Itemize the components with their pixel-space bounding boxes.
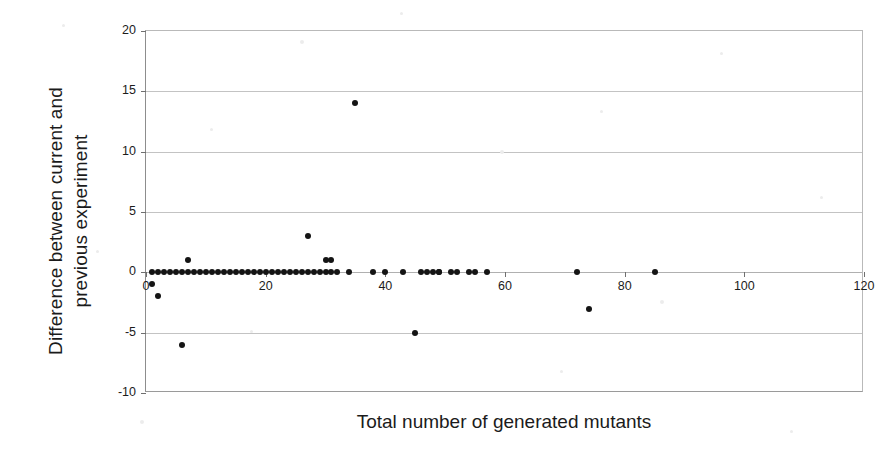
paper-speck <box>720 52 723 55</box>
x-tick-label-80: 80 <box>618 279 632 293</box>
y-tick-labels-group: -10-505101520 <box>0 0 145 362</box>
y-tick-label--5: -5 <box>125 325 136 339</box>
data-point <box>370 269 376 275</box>
data-point <box>454 269 460 275</box>
data-point <box>191 269 197 275</box>
data-point <box>167 269 173 275</box>
data-point <box>251 269 257 275</box>
x-tick-mark-80 <box>625 272 626 277</box>
y-tick-label-15: 15 <box>122 83 136 97</box>
x-tick-mark-0 <box>146 272 147 277</box>
data-point <box>305 269 311 275</box>
paper-speck <box>300 40 304 44</box>
x-axis-title: Total number of generated mutants <box>145 411 863 433</box>
data-point <box>382 269 388 275</box>
data-point <box>149 281 155 287</box>
data-point <box>299 269 305 275</box>
paper-speck <box>600 110 603 113</box>
paper-speck <box>820 196 823 199</box>
data-point <box>185 257 191 263</box>
y-tick-label--10: -10 <box>118 385 136 399</box>
x-tick-label-20: 20 <box>259 279 273 293</box>
data-point <box>239 269 245 275</box>
data-point <box>173 269 179 275</box>
paper-speck <box>400 12 403 15</box>
data-point <box>179 342 185 348</box>
data-point <box>269 269 275 275</box>
data-point <box>346 269 352 275</box>
data-point <box>317 269 323 275</box>
data-point <box>215 269 221 275</box>
y-tick-label-5: 5 <box>129 204 136 218</box>
paper-speck <box>790 430 793 433</box>
data-point <box>311 269 317 275</box>
data-point <box>209 269 215 275</box>
data-point <box>227 269 233 275</box>
y-tick-label-10: 10 <box>122 144 136 158</box>
data-point <box>328 257 334 263</box>
data-point <box>263 269 269 275</box>
data-point <box>185 269 191 275</box>
data-point <box>352 100 358 106</box>
data-point <box>221 269 227 275</box>
paper-speck <box>560 370 563 373</box>
x-tick-label-100: 100 <box>734 279 755 293</box>
data-point <box>203 269 209 275</box>
paper-speck <box>210 128 213 131</box>
data-point <box>281 269 287 275</box>
scatter-chart-figure: Difference between current and previous … <box>0 0 887 453</box>
data-point <box>233 269 239 275</box>
paper-speck <box>96 250 99 253</box>
data-point <box>293 269 299 275</box>
gridline-y-15 <box>146 91 862 92</box>
y-tick-label-0: 0 <box>129 264 136 278</box>
data-point <box>257 269 263 275</box>
data-point <box>334 269 340 275</box>
x-tick-label-60: 60 <box>498 279 512 293</box>
data-point <box>574 269 580 275</box>
paper-speck <box>500 150 504 154</box>
data-point <box>472 269 478 275</box>
data-point <box>586 306 592 312</box>
x-tick-label-120: 120 <box>854 279 875 293</box>
x-tick-mark-120 <box>864 272 865 277</box>
data-point <box>412 330 418 336</box>
gridline-y-5 <box>146 212 862 213</box>
data-point <box>287 269 293 275</box>
data-point <box>436 269 442 275</box>
paper-speck <box>62 24 65 27</box>
data-point <box>275 269 281 275</box>
data-point <box>197 269 203 275</box>
y-tick-mark--10 <box>141 393 146 394</box>
data-point <box>245 269 251 275</box>
data-point <box>400 269 406 275</box>
x-tick-label-40: 40 <box>378 279 392 293</box>
paper-speck <box>140 420 144 424</box>
y-tick-label-20: 20 <box>122 23 136 37</box>
data-point <box>155 293 161 299</box>
x-tick-mark-60 <box>505 272 506 277</box>
x-tick-mark-100 <box>744 272 745 277</box>
paper-speck <box>250 330 253 333</box>
plot-area: 020406080100120 <box>145 30 863 392</box>
gridline-y--5 <box>146 333 862 334</box>
gridline-y-10 <box>146 152 862 153</box>
data-point <box>652 269 658 275</box>
data-point <box>305 233 311 239</box>
paper-speck <box>660 300 664 304</box>
data-point <box>484 269 490 275</box>
data-point <box>179 269 185 275</box>
